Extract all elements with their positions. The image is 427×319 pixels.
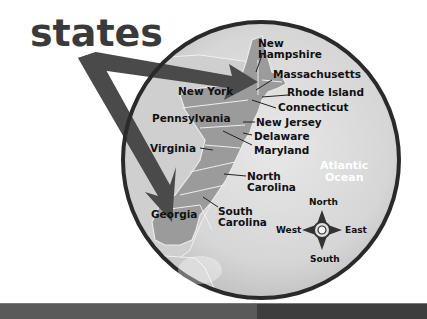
label-virginia: Virginia xyxy=(150,143,196,154)
label-new-york: New York xyxy=(178,86,233,97)
compass-south: South xyxy=(310,254,340,264)
label-pennsylvania: Pennsylvania xyxy=(152,113,231,124)
compass-north: North xyxy=(309,197,338,207)
label-connecticut: Connecticut xyxy=(278,102,349,113)
label-line: Hampshire xyxy=(258,49,322,60)
bottom-bar-left xyxy=(0,304,257,319)
compass-east: East xyxy=(345,225,367,235)
label-north-carolina: North Carolina xyxy=(247,171,296,193)
label-rhode-island: Rhode Island xyxy=(287,87,364,98)
bottom-bar-right xyxy=(257,304,427,319)
label-delaware: Delaware xyxy=(254,131,310,142)
map-figure: states New Hampshire Massachusetts New Y… xyxy=(0,0,427,319)
compass-west: West xyxy=(276,225,301,235)
label-georgia: Georgia xyxy=(151,209,197,220)
label-new-jersey: New Jersey xyxy=(256,117,322,128)
label-new-hampshire: New Hampshire xyxy=(258,38,322,60)
label-line: Ocean xyxy=(320,172,368,184)
label-line: Carolina xyxy=(218,217,267,228)
label-atlantic-ocean: Atlantic Ocean xyxy=(320,160,368,184)
label-line: Carolina xyxy=(247,182,296,193)
label-south-carolina: South Carolina xyxy=(218,206,267,228)
page-title: states xyxy=(30,14,163,52)
label-massachusetts: Massachusetts xyxy=(273,69,361,80)
label-maryland: Maryland xyxy=(254,145,309,156)
